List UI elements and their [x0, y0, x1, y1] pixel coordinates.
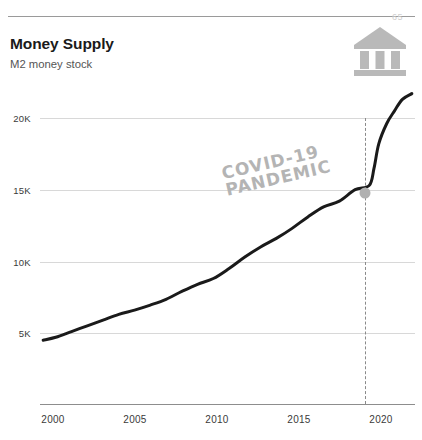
data-series-line	[0, 0, 422, 440]
covid-event-line	[365, 118, 366, 404]
covid-event-marker	[360, 188, 371, 199]
chart-plot-area: 20K 15K 10K 5K 2000 2005 2010 2015 2020 …	[0, 0, 422, 440]
chart-page: 65 Money Supply M2 money stock 20K 15K 1	[0, 0, 422, 440]
